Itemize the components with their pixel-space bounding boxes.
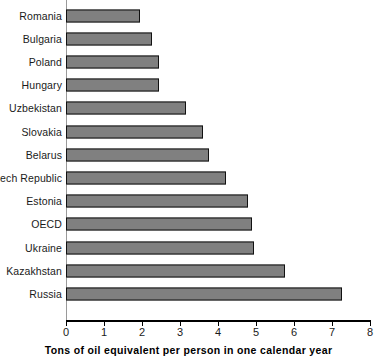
bar bbox=[66, 79, 159, 92]
bar-category-label: Poland bbox=[29, 56, 62, 68]
bar-row: Estonia bbox=[0, 190, 377, 213]
x-tick-label: 8 bbox=[358, 326, 377, 339]
x-tick-label: 7 bbox=[320, 326, 344, 339]
x-tick-label: 4 bbox=[206, 326, 230, 339]
bar-row: Uzbekistan bbox=[0, 97, 377, 120]
bar-row: Kazakhstan bbox=[0, 259, 377, 282]
x-axis-title: Tons of oil equivalent per person in one… bbox=[0, 344, 377, 356]
bar-row: Belarus bbox=[0, 143, 377, 166]
x-tick-label: 6 bbox=[282, 326, 306, 339]
bar-category-label: Estonia bbox=[26, 195, 62, 207]
bar-category-label: Slovakia bbox=[22, 126, 63, 138]
bar-row: Poland bbox=[0, 50, 377, 73]
bar-row: Hungary bbox=[0, 74, 377, 97]
x-tick-label: 1 bbox=[92, 326, 116, 339]
bar bbox=[66, 264, 285, 277]
bar bbox=[66, 195, 248, 208]
x-tick-label: 5 bbox=[244, 326, 268, 339]
bar bbox=[66, 9, 140, 22]
bar-category-label: Romania bbox=[19, 10, 62, 22]
bar-row: Romania bbox=[0, 4, 377, 27]
bar bbox=[66, 102, 186, 115]
bar-category-label: Kazakhstan bbox=[6, 265, 62, 277]
bar bbox=[66, 171, 226, 184]
bar-category-label: Russia bbox=[29, 288, 62, 300]
bar-category-label: Belarus bbox=[26, 149, 62, 161]
bar-chart: RomaniaBulgariaPolandHungaryUzbekistanSl… bbox=[0, 0, 377, 360]
plot-area: RomaniaBulgariaPolandHungaryUzbekistanSl… bbox=[0, 0, 377, 322]
bar bbox=[66, 287, 342, 300]
x-tick-label: 2 bbox=[130, 326, 154, 339]
bar bbox=[66, 55, 159, 68]
bar-row: Ukraine bbox=[0, 236, 377, 259]
bar bbox=[66, 125, 203, 138]
bar-category-label: Bulgaria bbox=[23, 33, 62, 45]
bar bbox=[66, 218, 252, 231]
bar-row: OECD bbox=[0, 213, 377, 236]
bar-row: Bulgaria bbox=[0, 27, 377, 50]
bar-row: Russia bbox=[0, 282, 377, 305]
x-tick-label: 0 bbox=[54, 326, 78, 339]
bar-category-label: Hungary bbox=[22, 79, 62, 91]
bar-row: Slovakia bbox=[0, 120, 377, 143]
bar-category-label: OECD bbox=[31, 218, 62, 230]
bar-category-label: Czech Republic bbox=[0, 172, 62, 184]
x-tick-label: 3 bbox=[168, 326, 192, 339]
bar bbox=[66, 241, 254, 254]
bar-category-label: Uzbekistan bbox=[9, 102, 62, 114]
bar-category-label: Ukraine bbox=[25, 242, 62, 254]
bar bbox=[66, 148, 209, 161]
bar bbox=[66, 32, 152, 45]
bar-row: Czech Republic bbox=[0, 166, 377, 189]
